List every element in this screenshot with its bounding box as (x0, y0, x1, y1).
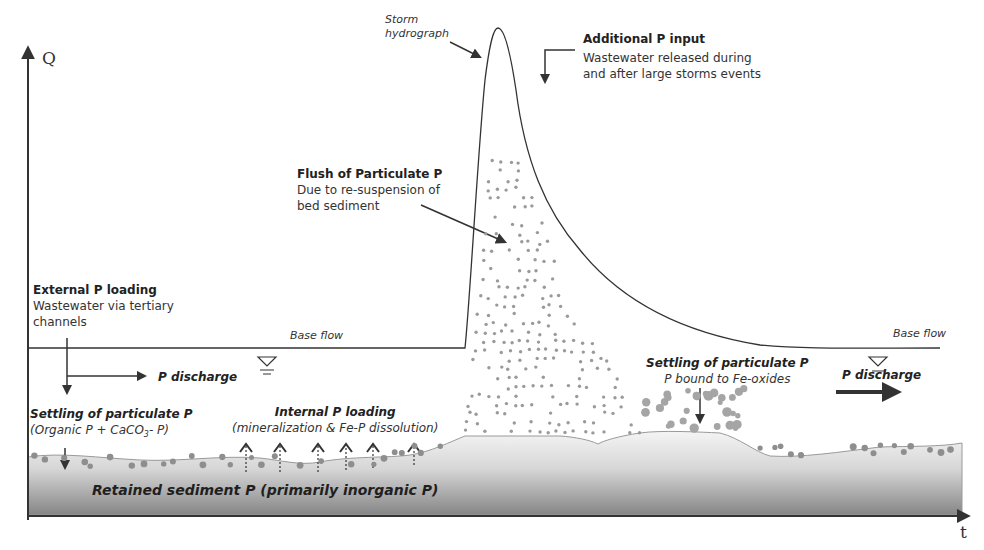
base-flow-left-label: Base flow (290, 328, 343, 344)
phosphorus-dynamics-diagram (0, 0, 984, 550)
sediment-layer (28, 431, 962, 515)
x-axis-label: t (960, 524, 967, 540)
y-axis-label: Q (42, 50, 56, 66)
external-loading-label: External P loading Wastewater via tertia… (33, 282, 174, 330)
flush-label: Flush of Particulate P Due to re-suspens… (297, 166, 442, 214)
retained-sediment-label: Retained sediment P (primarily inorganic… (92, 482, 438, 498)
settling-right-label: Settling of particulate P P bound to Fe-… (646, 355, 809, 387)
p-discharge-left-label: P discharge (158, 369, 237, 385)
base-flow-right-label: Base flow (893, 326, 946, 342)
settling-left-label: Settling of particulate P (Organic P + C… (30, 406, 193, 443)
storm-hydrograph-label: Storm hydrograph (385, 13, 449, 41)
additional-input-label: Additional P input Wastewater released d… (583, 31, 761, 82)
suspended-particles (464, 159, 748, 435)
internal-loading-label: Internal P loading (mineralization & Fe-… (232, 404, 438, 436)
additional-input-arrow (545, 50, 575, 82)
p-discharge-right-label: P discharge (842, 367, 921, 383)
storm-hydrograph-arrow (450, 42, 480, 57)
base-flow-symbol-left (258, 357, 276, 374)
